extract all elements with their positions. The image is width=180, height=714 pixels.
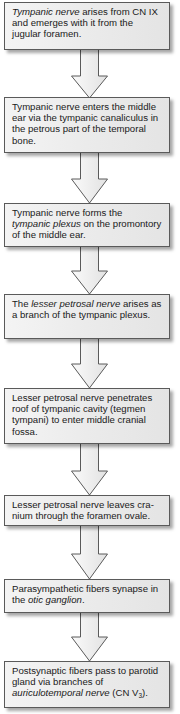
step-4-text: The: [12, 298, 31, 309]
step-3-text: Tympanic nerve forms the: [12, 207, 122, 218]
step-4-term: lesser petrosal nerve: [31, 298, 120, 309]
step-8-text: Postsynaptic fibers pass to parotid glan…: [12, 665, 158, 687]
step-box-7: Parasympathetic fibers synapse in the ot…: [4, 579, 170, 613]
down-arrow-icon: [0, 50, 180, 99]
down-arrow-icon: [0, 153, 180, 204]
step-box-8: Postsynaptic fibers pass to parotid glan…: [4, 661, 170, 708]
down-arrow-icon: [0, 526, 180, 580]
down-arrow-icon: [0, 444, 180, 496]
step-8-text-end: ).: [142, 687, 148, 698]
step-2-text: Tympanic nerve enters the middle ear via…: [12, 101, 158, 146]
step-7-term: otic ganglion: [28, 594, 82, 605]
step-7-text-end: .: [82, 594, 85, 605]
step-box-6: Lesser petrosal nerve leaves cra-nium th…: [4, 495, 170, 526]
step-8-term: auriculotemporal nerve: [12, 687, 110, 698]
down-arrow-icon: [0, 339, 180, 389]
step-box-1: Tympanic nerve arises from CN IX and eme…: [4, 2, 170, 50]
down-arrow-icon: [0, 247, 180, 295]
step-box-3: Tympanic nerve forms the tympanic plexus…: [4, 203, 170, 247]
step-8-text-cn: (CN V: [110, 687, 139, 698]
down-arrow-icon: [0, 613, 180, 662]
step-1-term: Tympanic nerve: [12, 6, 80, 17]
step-3-term: tympanic plexus: [12, 218, 81, 229]
step-box-5: Lesser petrosal nerve penetrates roof of…: [4, 388, 170, 444]
step-box-2: Tympanic nerve enters the middle ear via…: [4, 97, 170, 153]
step-box-4: The lesser petrosal nerve arises as a br…: [4, 294, 170, 339]
step-6-text: Lesser petrosal nerve leaves cra-nium th…: [12, 499, 154, 521]
flowchart: Tympanic nerve arises from CN IX and eme…: [0, 0, 180, 714]
step-5-text: Lesser petrosal nerve penetrates roof of…: [12, 392, 152, 437]
